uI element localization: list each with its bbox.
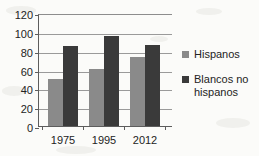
x-tick-label: 2012	[133, 134, 157, 146]
y-tick-label: 0	[27, 123, 33, 134]
bar	[48, 79, 63, 126]
legend-swatch-icon	[182, 51, 189, 58]
y-tick-label: 20	[21, 104, 33, 115]
bars-layer	[39, 15, 172, 126]
x-tick-mark	[124, 126, 125, 130]
x-tick-label: 1975	[51, 134, 75, 146]
legend: Hispanos Blancos no hispanos	[182, 48, 258, 111]
x-tick-mark	[42, 126, 43, 130]
bar	[63, 46, 78, 126]
x-tick-mark	[165, 126, 166, 130]
y-tick-label: 120	[15, 10, 33, 21]
y-tick-label: 80	[21, 47, 33, 58]
legend-label: Hispanos	[194, 48, 240, 61]
bar	[130, 57, 145, 126]
bar	[89, 69, 104, 126]
y-tick-mark	[35, 128, 39, 129]
y-tick-label: 100	[15, 28, 33, 39]
x-tick-label: 1995	[92, 134, 116, 146]
y-tick-label: 60	[21, 66, 33, 77]
scan-artifact	[56, 146, 96, 154]
legend-entry: Blancos no hispanos	[182, 73, 258, 99]
scan-artifact	[216, 118, 250, 128]
plot-area: 020406080100120 197519952012	[38, 14, 172, 127]
y-tick-label: 40	[21, 85, 33, 96]
scan-artifact	[196, 8, 222, 15]
legend-entry: Hispanos	[182, 48, 258, 61]
bar	[104, 36, 119, 126]
legend-swatch-icon	[182, 76, 189, 83]
x-tick-mark	[83, 126, 84, 130]
bar-chart: 020406080100120 197519952012 Hispanos Bl…	[0, 0, 259, 156]
bar	[145, 45, 160, 126]
legend-label: Blancos no hispanos	[194, 73, 258, 99]
